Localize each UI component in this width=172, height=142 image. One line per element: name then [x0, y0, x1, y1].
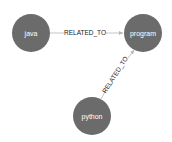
graph-canvas[interactable]: RELATED_TO RELATED_TO java program pytho… — [0, 0, 172, 142]
node-program[interactable]: program — [124, 14, 162, 52]
edge-arrow — [128, 50, 134, 58]
node-python[interactable]: python — [73, 97, 111, 135]
edge-label: RELATED_TO — [64, 29, 106, 37]
node-java[interactable]: java — [12, 14, 50, 52]
node-label: program — [130, 30, 156, 38]
edge-java-program[interactable]: RELATED_TO — [50, 29, 123, 37]
node-label: java — [24, 30, 38, 38]
node-label: python — [81, 113, 102, 121]
edge-label: RELATED_TO — [101, 55, 130, 95]
edge-python-program[interactable]: RELATED_TO — [101, 50, 134, 99]
